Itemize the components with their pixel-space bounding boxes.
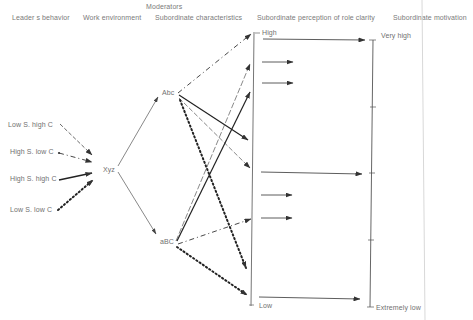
path-diagram-graphic: [0, 0, 473, 320]
behavior-arrows: [58, 124, 93, 210]
motivation-axis: [370, 40, 373, 307]
page-edge-line: [422, 0, 425, 320]
role-clarity-axis: [251, 32, 254, 306]
